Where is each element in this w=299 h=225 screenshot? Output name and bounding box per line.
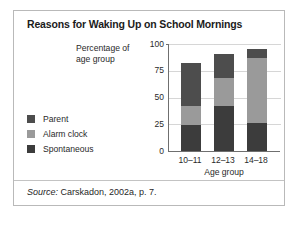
source-prefix: Source: (27, 187, 58, 197)
bar-12-13[interactable] (214, 54, 234, 151)
legend-item-alarm-clock[interactable]: Alarm clock (27, 127, 132, 142)
y-tick-label: 0 (138, 147, 164, 156)
legend-swatch-icon (27, 115, 35, 123)
bar-segment-alarm-clock (181, 106, 201, 125)
bar-segment-parent (214, 54, 234, 79)
legend-swatch-icon (27, 130, 35, 138)
source-citation: Carskadon, 2002a, p. 7. (61, 187, 157, 197)
chart-legend: Parent Alarm clock Spontaneous (27, 112, 132, 157)
x-axis-tick-labels: 10–11 12–13 14–18 (168, 155, 280, 166)
bar-segment-spontaneous (181, 125, 201, 151)
legend-item-spontaneous[interactable]: Spontaneous (27, 142, 132, 157)
bar-segment-spontaneous (214, 106, 234, 151)
source-divider (14, 180, 284, 181)
y-tick-label: 75 (138, 66, 164, 75)
bar-segment-parent (181, 63, 201, 106)
legend-item-parent[interactable]: Parent (27, 112, 132, 127)
y-tick-label: 50 (138, 93, 164, 102)
bar-10-11[interactable] (181, 63, 201, 151)
bar-segment-alarm-clock (247, 58, 267, 123)
plot-area-wrapper (168, 44, 280, 152)
legend-label: Alarm clock (43, 127, 87, 141)
source-note: Source: Carskadon, 2002a, p. 7. (27, 187, 157, 197)
y-tick-label: 25 (138, 120, 164, 129)
bar-segment-parent (247, 49, 267, 58)
y-axis-tick-labels: 100 75 50 25 0 (138, 44, 164, 152)
x-axis-title: Age group (168, 167, 280, 177)
figure-container: Reasons for Waking Up on School Mornings… (0, 0, 299, 225)
chart-title: Reasons for Waking Up on School Mornings (27, 18, 242, 30)
legend-label: Parent (43, 112, 68, 126)
legend-label: Spontaneous (43, 142, 94, 156)
x-tick-label-14-18: 14–18 (236, 155, 276, 165)
bar-segment-spontaneous (247, 123, 267, 151)
bar-14-18[interactable] (247, 49, 267, 151)
bar-group (169, 44, 280, 151)
y-axis-title: Percentage of age group (76, 43, 138, 65)
bar-segment-alarm-clock (214, 78, 234, 106)
y-tick-label: 100 (138, 40, 164, 49)
legend-swatch-icon (27, 145, 35, 153)
